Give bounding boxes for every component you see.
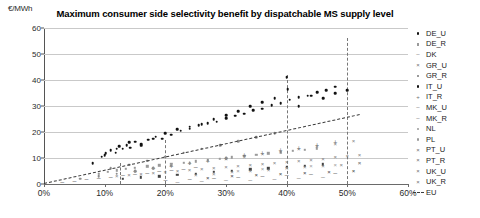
legend-item-pt_r[interactable]: ×PT_R: [412, 155, 478, 166]
legend-item-label: DE_R: [424, 39, 446, 48]
data-point: ×: [206, 175, 210, 181]
data-point: [207, 159, 210, 162]
data-point: [292, 150, 294, 152]
x-tick-mark: [44, 184, 45, 187]
legend-item-it_u[interactable]: IT_U: [412, 81, 478, 92]
y-tick-label: 10: [32, 154, 41, 163]
data-point: –: [297, 173, 301, 180]
data-point: [231, 156, 233, 158]
legend-marker-icon: [412, 189, 424, 195]
legend-item-gr_u[interactable]: ×GR_U: [412, 60, 478, 71]
data-point: ×: [333, 141, 337, 147]
data-point: [109, 149, 112, 152]
legend-item-pl[interactable]: PL: [412, 134, 478, 145]
data-point: ×: [340, 162, 344, 168]
data-point: [116, 172, 119, 175]
legend-item-dk[interactable]: –DK: [412, 49, 478, 60]
plot-area: 01020304050600%10%20%30%40%50%60%–––––––…: [44, 28, 408, 184]
legend-item-label: EU: [424, 188, 436, 197]
data-point: [261, 107, 264, 110]
x-tick-mark: [408, 184, 409, 187]
data-point: [267, 152, 269, 154]
legend-item-de_r[interactable]: DE_R: [412, 39, 478, 50]
data-point: ×: [242, 154, 246, 160]
data-point: [310, 94, 313, 97]
data-point: ×: [358, 152, 362, 158]
y-tick-label: 30: [32, 102, 41, 111]
x-tick-label: 10%: [96, 188, 113, 198]
legend-marker-icon: +: [412, 94, 424, 100]
data-point: ×: [297, 158, 301, 164]
y-axis-unit-label: €/MWh: [8, 4, 32, 13]
data-point: [176, 128, 179, 131]
x-tick-label: 40%: [278, 188, 295, 198]
data-point: [91, 162, 94, 165]
legend-marker-icon: ×: [412, 157, 424, 163]
data-point: [118, 145, 121, 148]
gridline-horizontal: [44, 106, 408, 107]
data-point: [140, 144, 143, 147]
legend-item-uk_r[interactable]: ×UK_R: [412, 176, 478, 187]
data-point: –: [85, 175, 89, 182]
data-point: ×: [267, 167, 271, 173]
y-tick-label: 60: [32, 24, 41, 33]
x-tick-mark: [226, 184, 227, 187]
legend-item-label: DE_U: [424, 29, 446, 38]
y-tick-mark: [41, 106, 44, 107]
legend-marker-icon: [412, 30, 424, 36]
data-point: [219, 157, 221, 159]
legend-item-nl[interactable]: NL: [412, 123, 478, 134]
data-point: [322, 97, 325, 100]
data-point: [334, 92, 337, 95]
data-point: [170, 165, 173, 168]
data-point: ×: [249, 162, 253, 168]
reference-line-vertical: [347, 38, 348, 184]
data-point: [134, 141, 137, 144]
data-point: [200, 123, 203, 126]
data-point: –: [224, 176, 228, 183]
legend-item-pt_u[interactable]: ×PT_U: [412, 145, 478, 156]
legend-marker-icon: [412, 136, 424, 142]
data-point: ×: [212, 171, 216, 177]
data-point: [176, 173, 178, 175]
legend-item-mk_r[interactable]: –MK_R: [412, 113, 478, 124]
data-point: [298, 96, 301, 99]
data-point: –: [182, 164, 186, 171]
data-point: [158, 175, 160, 177]
data-point: –: [157, 167, 161, 174]
data-point: ×: [188, 167, 192, 173]
gridline-horizontal: [44, 80, 408, 81]
data-point: ×: [297, 146, 301, 152]
data-point: –: [194, 163, 198, 170]
legend-item-label: PT_U: [424, 145, 445, 154]
data-point: ×: [303, 170, 307, 176]
data-point: [188, 162, 191, 165]
data-point: [154, 135, 157, 138]
data-point: [252, 109, 255, 112]
data-point: [261, 101, 264, 104]
data-point: [225, 114, 228, 117]
data-point: ×: [261, 151, 265, 157]
data-point: [128, 141, 131, 144]
legend-item-eu[interactable]: EU: [412, 187, 478, 198]
gridline-horizontal: [44, 28, 408, 29]
legend-item-gr_r[interactable]: GR_R: [412, 70, 478, 81]
data-point: [234, 115, 237, 118]
data-point: [316, 91, 319, 94]
data-point: [152, 167, 155, 170]
legend-item-uk_u[interactable]: ×UK_U: [412, 166, 478, 177]
legend-marker-icon: ×: [412, 147, 424, 153]
data-point: –: [321, 173, 325, 180]
legend-item-it_r[interactable]: +IT_R: [412, 92, 478, 103]
legend-item-mk_u[interactable]: –MK_U: [412, 102, 478, 113]
data-point: [325, 89, 328, 92]
data-point: ×: [346, 153, 350, 159]
legend-marker-icon: [412, 73, 424, 79]
data-point: –: [309, 169, 313, 176]
data-point: [161, 137, 164, 140]
data-point: [116, 148, 119, 151]
data-point: ×: [279, 171, 283, 177]
gridline-horizontal: [44, 54, 408, 55]
data-point: ×: [273, 160, 277, 166]
legend-item-de_u[interactable]: DE_U: [412, 28, 478, 39]
